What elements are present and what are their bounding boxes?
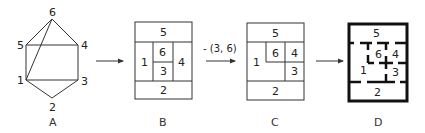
- room-5: 5: [373, 27, 380, 40]
- room-6: 6: [375, 48, 382, 61]
- room-1: 1: [253, 56, 260, 69]
- panel-a-graph: [26, 19, 78, 98]
- caption-a: A: [49, 116, 57, 129]
- edge-3-2: [52, 80, 78, 98]
- room-2: 2: [374, 86, 381, 99]
- node-label-2: 2: [49, 101, 56, 114]
- room-2: 2: [160, 84, 167, 97]
- room-1: 1: [141, 56, 148, 69]
- edge-6-5: [26, 19, 52, 45]
- room-4: 4: [392, 48, 399, 61]
- edge-6-4: [52, 19, 78, 45]
- node-label-1: 1: [17, 74, 24, 87]
- node-label-4: 4: [81, 39, 88, 52]
- node-label-6: 6: [49, 6, 56, 19]
- caption-b: B: [159, 116, 167, 129]
- node-label-5: 5: [17, 39, 24, 52]
- room-4: 4: [178, 56, 185, 69]
- room-3: 3: [160, 65, 167, 78]
- caption-d: D: [374, 116, 382, 129]
- room-2: 2: [272, 85, 279, 98]
- node-label-3: 3: [81, 75, 88, 88]
- room-6: 6: [272, 47, 279, 60]
- room-1: 1: [360, 64, 367, 77]
- room-3: 3: [392, 66, 399, 79]
- edge-1-2: [26, 80, 52, 98]
- room-4: 4: [291, 47, 298, 60]
- diagram-canvas: 6 5 4 1 3 2 A 5 1 6 3 4 2 B - (3, 6) 5 1…: [0, 0, 425, 133]
- edge-6-1: [26, 19, 52, 80]
- arrow-label-remove-edge: - (3, 6): [203, 43, 237, 54]
- caption-c: C: [271, 116, 279, 129]
- room-6: 6: [159, 46, 166, 59]
- room-5: 5: [272, 27, 279, 40]
- room-3: 3: [291, 65, 298, 78]
- room-5: 5: [160, 26, 167, 39]
